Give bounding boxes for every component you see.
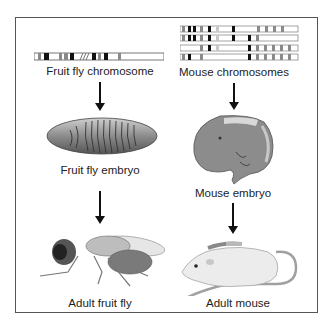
mouse-chromosomes xyxy=(180,24,300,64)
arrow-down-icon xyxy=(233,83,235,103)
arrow-down-icon xyxy=(232,203,234,227)
fruit-fly-chromosome-label: Fruit fly chromosome xyxy=(46,65,153,77)
mouse-chromosomes-label: Mouse chromosomes xyxy=(179,66,289,78)
mouse-embryo xyxy=(190,112,280,187)
adult-mouse-label: Adult mouse xyxy=(206,297,270,309)
adult-mouse xyxy=(172,236,302,296)
fruit-fly-embryo-label: Fruit fly embryo xyxy=(60,164,139,176)
adult-fruit-fly-label: Adult fruit fly xyxy=(68,297,131,309)
arrow-down-icon xyxy=(99,191,101,217)
fruit-fly-embryo xyxy=(46,116,158,156)
arrow-down-icon xyxy=(99,82,101,104)
fruit-fly-chromosome xyxy=(34,51,164,63)
adult-fruit-fly xyxy=(38,232,166,292)
mouse-embryo-label: Mouse embryo xyxy=(195,187,271,199)
